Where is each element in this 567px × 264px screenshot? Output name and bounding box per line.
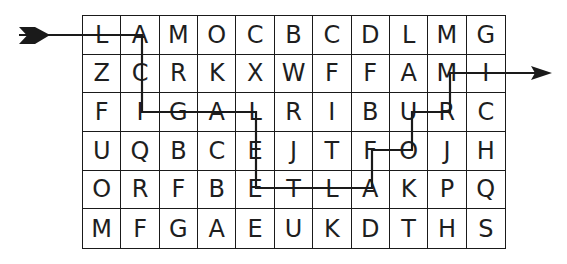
grid-cell: B: [352, 93, 390, 132]
grid-cell: X: [236, 55, 274, 94]
grid-cell: I: [313, 93, 351, 132]
grid-cell: R: [160, 55, 198, 94]
grid-cell: W: [275, 55, 313, 94]
grid-cell: D: [352, 16, 390, 55]
grid-cell: T: [313, 132, 351, 171]
grid-cell: Z: [83, 55, 121, 94]
grid-cell: I: [121, 93, 159, 132]
grid-cell: O: [198, 16, 236, 55]
exit-arrow-icon: [531, 66, 552, 80]
grid-cell: A: [352, 171, 390, 210]
grid-cell: K: [390, 171, 428, 210]
grid-cell: T: [275, 171, 313, 210]
grid-cell: J: [428, 132, 466, 171]
grid-cell: F: [83, 93, 121, 132]
grid-cell: D: [352, 209, 390, 248]
grid-cell: M: [428, 55, 466, 94]
grid-cell: Q: [121, 132, 159, 171]
grid-cell: P: [428, 171, 466, 210]
grid-cell: K: [198, 55, 236, 94]
grid-cell: F: [352, 132, 390, 171]
grid-cell: B: [160, 132, 198, 171]
grid-cell: F: [160, 171, 198, 210]
grid-cell: B: [198, 171, 236, 210]
grid-cell: A: [390, 55, 428, 94]
grid-cell: B: [275, 16, 313, 55]
grid-cell: A: [198, 209, 236, 248]
grid-cell: T: [390, 209, 428, 248]
grid-cell: L: [236, 93, 274, 132]
grid-cell: R: [121, 171, 159, 210]
letter-grid: LAMOCBCDLMGZCRKXWFFAMIFIGALRIBURCUQBCEJT…: [82, 15, 506, 249]
grid-cell: A: [121, 16, 159, 55]
grid-cell: U: [83, 132, 121, 171]
grid-cell: F: [352, 55, 390, 94]
grid-cell: F: [121, 209, 159, 248]
grid-cell: E: [236, 171, 274, 210]
grid-cell: R: [428, 93, 466, 132]
grid-cell: G: [467, 16, 505, 55]
grid-cell: H: [467, 132, 505, 171]
grid-cell: O: [390, 132, 428, 171]
grid-cell: L: [83, 16, 121, 55]
grid-cell: A: [198, 93, 236, 132]
grid-cell: S: [467, 209, 505, 248]
grid-cell: F: [313, 55, 351, 94]
grid-cell: M: [83, 209, 121, 248]
grid-cell: E: [236, 132, 274, 171]
grid-cell: Q: [467, 171, 505, 210]
grid-cell: L: [313, 171, 351, 210]
entry-arrow-icon: [19, 27, 50, 44]
grid-cell: G: [160, 209, 198, 248]
grid-cell: C: [236, 16, 274, 55]
grid-cell: J: [275, 132, 313, 171]
grid-cell: K: [313, 209, 351, 248]
grid-cell: C: [121, 55, 159, 94]
grid-cell: C: [198, 132, 236, 171]
grid-cell: M: [428, 16, 466, 55]
grid-cell: C: [313, 16, 351, 55]
grid-cell: R: [275, 93, 313, 132]
grid-cell: M: [160, 16, 198, 55]
grid-cell: L: [390, 16, 428, 55]
grid-cell: I: [467, 55, 505, 94]
grid-cell: E: [236, 209, 274, 248]
grid-cell: C: [467, 93, 505, 132]
maze-diagram: LAMOCBCDLMGZCRKXWFFAMIFIGALRIBURCUQBCEJT…: [0, 0, 567, 264]
grid-cell: U: [390, 93, 428, 132]
grid-cell: O: [83, 171, 121, 210]
grid-cell: U: [275, 209, 313, 248]
grid-cell: G: [160, 93, 198, 132]
grid-cell: H: [428, 209, 466, 248]
